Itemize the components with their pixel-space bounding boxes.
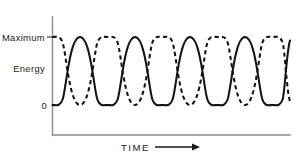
y-label-zero: 0: [41, 100, 47, 111]
chart-canvas: Maximum Energy 0 TIME: [0, 0, 295, 158]
y-label-energy: Energy: [13, 63, 45, 74]
time-arrow-icon: [155, 143, 200, 150]
waveform-group: [53, 37, 291, 105]
axis-group: [47, 17, 290, 136]
energy-vs-time-figure: Maximum Energy 0 TIME: [0, 0, 295, 158]
y-label-maximum: Maximum: [2, 32, 45, 43]
x-axis-label: TIME: [121, 142, 150, 153]
